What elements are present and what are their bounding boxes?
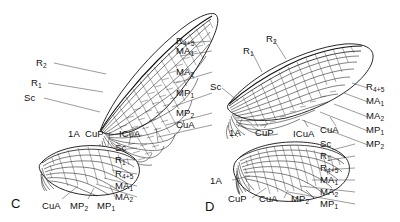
label-d-forewing-mp1: MP1 bbox=[366, 125, 384, 135]
label-c-forewing-r1: R1 bbox=[31, 78, 42, 88]
label-c-forewing-ma2: MA2 bbox=[176, 67, 194, 77]
label-c-forewing-mp2: MP2 bbox=[176, 108, 194, 118]
panel-letter-d: D bbox=[205, 199, 214, 214]
label-c-forewing-ma1: MA1 bbox=[176, 46, 194, 56]
label-c-forewing-r2: R2 bbox=[36, 58, 47, 68]
label-c-hindwing-cua: CuA bbox=[42, 201, 61, 211]
label-c-hindwing-ma1: MA1 bbox=[115, 181, 133, 191]
label-c-hindwing-mp1: MP1 bbox=[97, 201, 115, 211]
label-c-forewing-cup: CuP bbox=[85, 129, 104, 139]
label-d-hindwing-mp1: MP1 bbox=[320, 199, 338, 209]
label-d-forewing-r1: R1 bbox=[243, 46, 254, 56]
label-d-hindwing-mp2: MP2 bbox=[291, 194, 309, 204]
label-d-forewing-sc: Sc bbox=[210, 82, 221, 92]
label-c-hindwing-r1: R1 bbox=[115, 155, 126, 165]
label-d-forewing-mp2: MP2 bbox=[366, 139, 384, 149]
label-d-forewing-cup: CuP bbox=[255, 128, 274, 138]
label-d-forewing-1a: 1A bbox=[229, 128, 241, 138]
label-d-hindwing-sc: Sc bbox=[320, 139, 331, 149]
label-c-hindwing-mp2: MP2 bbox=[70, 201, 88, 211]
label-d-hindwing-1a: 1A bbox=[210, 176, 222, 186]
label-d-forewing-icua: ICuA bbox=[293, 129, 315, 139]
label-d-hindwing-cua: CuA bbox=[259, 194, 278, 204]
label-d-forewing-ma1: MA1 bbox=[366, 96, 384, 106]
label-c-forewing-1a: 1A bbox=[68, 129, 80, 139]
label-d-forewing-ma2: MA2 bbox=[366, 111, 384, 121]
label-d-hindwing-ma2: MA2 bbox=[320, 187, 338, 197]
label-d-forewing-cua: CuA bbox=[320, 125, 339, 135]
label-d-hindwing-r1: R1 bbox=[320, 151, 331, 161]
label-c-hindwing-ma2: MA2 bbox=[115, 192, 133, 202]
label-c-hindwing-r45: R4+5 bbox=[115, 169, 133, 179]
label-c-hindwing-sc: Sc bbox=[115, 143, 126, 153]
label-c-forewing-cua: CuA bbox=[176, 120, 195, 130]
label-c-forewing-icua: ICuA bbox=[119, 129, 141, 139]
label-d-hindwing-r45: R4+5 bbox=[320, 163, 338, 173]
label-d-hindwing-cup: CuP bbox=[228, 194, 247, 204]
label-d-hindwing-ma1: MA1 bbox=[320, 175, 338, 185]
label-c-forewing-mp1: MP1 bbox=[176, 88, 194, 98]
label-c-forewing-sc: Sc bbox=[24, 93, 35, 103]
label-d-forewing-r45: R4+5 bbox=[366, 82, 384, 92]
figure-illustration bbox=[0, 0, 400, 222]
wing-venation-figure: R2 R1 Sc R4+5 MA1 MA2 MP1 MP2 CuA 1A CuP… bbox=[0, 0, 400, 222]
label-d-forewing-r2: R2 bbox=[266, 34, 277, 44]
panel-letter-c: C bbox=[11, 196, 20, 211]
